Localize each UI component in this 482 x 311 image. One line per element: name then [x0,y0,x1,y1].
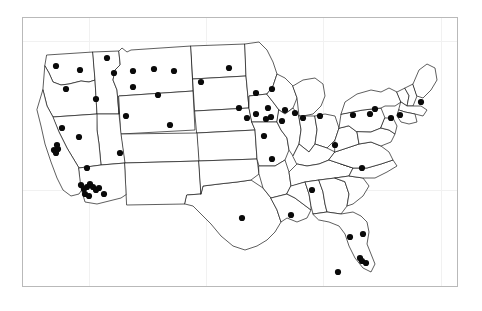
data-point [347,234,353,240]
data-point [269,156,275,162]
data-point [101,191,107,197]
data-point [167,122,173,128]
data-point [96,185,102,191]
figure-container [0,0,482,311]
data-point [123,113,129,119]
data-point [130,68,136,74]
data-point [279,118,285,124]
data-point [288,212,294,218]
data-point [239,215,245,221]
data-point [93,96,99,102]
data-point [309,187,315,193]
data-point [53,63,59,69]
data-point [363,260,369,266]
plot-frame [22,17,458,287]
data-point [63,86,69,92]
us-map [23,18,459,288]
data-point [332,142,338,148]
data-point [171,68,177,74]
data-point [77,67,83,73]
data-point [372,106,378,112]
data-point [317,113,323,119]
data-point [261,133,267,139]
data-point [360,231,366,237]
data-point [111,70,117,76]
data-point [300,115,306,121]
data-point [55,146,61,152]
data-point [236,105,242,111]
data-point [84,165,90,171]
data-point [265,105,271,111]
data-point [350,112,356,118]
data-point [367,111,373,117]
data-point [359,165,365,171]
data-point [282,107,288,113]
data-point [86,193,92,199]
data-point [76,134,82,140]
data-point [292,110,298,116]
data-point [397,112,403,118]
data-point [253,90,259,96]
data-point [130,84,136,90]
data-point [151,66,157,72]
data-point [269,86,275,92]
data-point [59,125,65,131]
data-point [198,79,204,85]
data-point [253,111,259,117]
data-point [418,99,424,105]
data-point [104,55,110,61]
data-point [388,115,394,121]
data-point [155,92,161,98]
data-point [244,115,250,121]
data-point [117,150,123,156]
data-point [226,65,232,71]
data-point [335,269,341,275]
state-boundaries [37,42,437,272]
data-point [263,116,269,122]
